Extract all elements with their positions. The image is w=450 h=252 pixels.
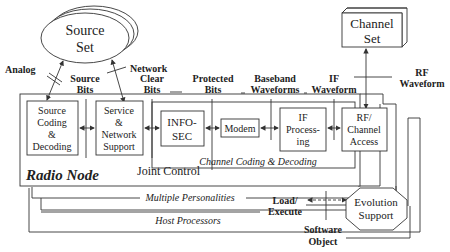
source-coding-block: Source Coding & Decoding	[27, 101, 78, 155]
svg-text:ing: ing	[297, 136, 310, 147]
analog-label: Analog	[5, 64, 36, 75]
if-waveform-label-1: IF	[329, 73, 339, 84]
svg-text:&: &	[48, 129, 56, 140]
source-bits-label-2: Bits	[77, 84, 94, 95]
svg-text:&: &	[115, 117, 123, 128]
software-object-label-2: Object	[309, 236, 339, 247]
source-set-label-1: Source	[66, 23, 105, 38]
clear-bits-label-2: Bits	[144, 84, 161, 95]
radio-node-diagram: Source Set Channel Set Analog Network So…	[0, 0, 450, 252]
service-network-block: Service & Network Support	[96, 101, 143, 155]
svg-text:Access: Access	[350, 136, 378, 147]
svg-text:SEC: SEC	[172, 130, 192, 142]
svg-text:Process-: Process-	[286, 124, 320, 135]
channel-set: Channel Set	[342, 8, 407, 47]
svg-text:Modem: Modem	[224, 123, 255, 134]
host-processors-label: Host Processors	[154, 215, 221, 226]
svg-text:RF/: RF/	[356, 112, 371, 123]
if-processing-block: IF Process- ing	[280, 108, 326, 151]
svg-text:Evolution: Evolution	[354, 196, 398, 208]
load-execute-label-2: Execute	[268, 206, 302, 217]
multiple-personalities-label: Multiple Personalities	[144, 192, 234, 203]
channel-coding-label: Channel Coding & Decoding	[199, 156, 317, 167]
svg-text:Coding: Coding	[37, 117, 66, 128]
source-set-label-2: Set	[76, 40, 94, 55]
svg-text:Support: Support	[359, 209, 394, 221]
software-object-label-1: Software	[304, 224, 343, 235]
network-break	[107, 67, 126, 73]
protected-bits-label-2: Bits	[205, 84, 222, 95]
joint-control-label: Joint Control	[137, 164, 201, 178]
protected-bits-label-1: Protected	[193, 73, 234, 84]
channel-set-label-2: Set	[364, 31, 381, 46]
svg-text:Channel: Channel	[347, 124, 381, 135]
rf-channel-access-block: RF/ Channel Access	[342, 108, 387, 151]
if-waveform-label-2: Waveform	[312, 84, 358, 95]
svg-text:Service: Service	[104, 105, 135, 116]
rf-waveform-label-2: Waveform	[400, 78, 446, 89]
channel-set-label-1: Channel	[350, 16, 394, 31]
clear-bits-label-1: Clear	[140, 73, 164, 84]
svg-text:Support: Support	[103, 141, 135, 152]
load-execute-label-1: Load/	[272, 195, 297, 206]
baseband-label-1: Baseband	[254, 73, 296, 84]
radio-node-title: Radio Node	[25, 167, 99, 183]
baseband-label-2: Waveforms	[251, 84, 300, 95]
svg-text:Source: Source	[38, 105, 66, 116]
rf-waveform-label-1: RF	[415, 67, 428, 78]
svg-text:INFO-: INFO-	[167, 116, 197, 128]
source-bits-label-1: Source	[70, 73, 100, 84]
source-set: Source Set	[41, 6, 138, 63]
analog-break-1	[49, 73, 62, 82]
radio-node-back-frame	[360, 94, 383, 104]
svg-text:Decoding: Decoding	[33, 141, 72, 152]
evolution-support-block: Evolution Support	[346, 188, 407, 230]
infosec-block: INFO- SEC	[161, 111, 204, 146]
svg-text:IF: IF	[299, 112, 308, 123]
modem-block: Modem	[221, 119, 259, 137]
svg-text:Network: Network	[102, 129, 137, 140]
